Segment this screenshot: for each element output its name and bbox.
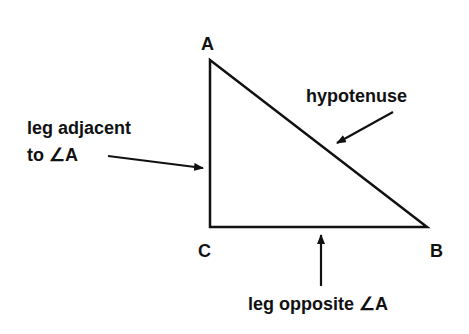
adjacent-label-line2: to ∠A: [27, 145, 78, 165]
vertex-b-label: B: [430, 241, 443, 261]
adjacent-arrow: [108, 156, 203, 168]
hypotenuse-arrow: [337, 112, 393, 143]
triangle-diagram: A C B hypotenuse leg adjacent to ∠A leg …: [0, 0, 469, 334]
adjacent-label-line1: leg adjacent: [27, 118, 131, 138]
vertex-c-label: C: [198, 241, 211, 261]
vertex-a-label: A: [201, 34, 214, 54]
opposite-label: leg opposite ∠A: [248, 294, 388, 314]
diagram-canvas: A C B hypotenuse leg adjacent to ∠A leg …: [0, 0, 469, 334]
hypotenuse-label: hypotenuse: [306, 86, 407, 106]
